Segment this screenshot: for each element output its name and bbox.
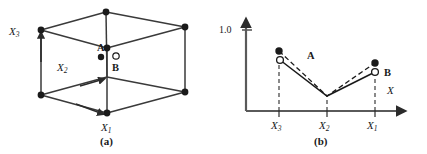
- cube-axis-label-x1: X1: [101, 122, 111, 133]
- cube-point-a-label: A: [97, 43, 105, 54]
- panel-a-caption: (a): [100, 136, 113, 147]
- vertex-top-back: [103, 9, 110, 16]
- series-b-label: B: [384, 68, 391, 79]
- series-b-point-x1: [372, 69, 379, 76]
- cube-axis-label-x3: X3: [9, 26, 19, 37]
- x-tick-label-x1: X1: [367, 120, 377, 131]
- cube-edge-top-front-right: [107, 27, 185, 48]
- x-axis-label: X: [387, 85, 394, 96]
- panel-a-cube: X3 X2 X1 A B (a): [0, 0, 214, 154]
- series-a-point-x1: [371, 59, 378, 66]
- panel-b-plot: 1.0 X X3 X2 X1 A B (b): [214, 0, 427, 154]
- vertex-bottom-front: [104, 110, 111, 117]
- series-a-path: [279, 51, 375, 96]
- series-b-point-x3: [277, 57, 284, 64]
- vertex-bottom-left: [38, 92, 45, 99]
- cube-edge-bottom-front-right: [107, 92, 185, 113]
- vertex-top-left: [38, 27, 45, 34]
- vertex-bottom-right: [182, 89, 189, 96]
- cube-point-b-label: B: [112, 63, 119, 74]
- cube-edge-top-back-left: [41, 12, 106, 30]
- series-b-markers: [277, 57, 379, 76]
- cube-edge-bottom-back-right: [107, 77, 185, 92]
- cube-point-a-marker: [98, 54, 104, 60]
- panel-b-caption: (b): [314, 136, 327, 147]
- cube-point-b-marker: [113, 53, 119, 59]
- plot-axes: [246, 20, 404, 111]
- x-tick-label-x3: X3: [271, 120, 281, 131]
- cube-edge-top-back-right: [106, 12, 185, 27]
- axis-arrow-x2: [80, 79, 104, 86]
- cube-edge-bottom-front-left: [41, 95, 107, 113]
- cube-axis-label-x2: X2: [57, 62, 67, 73]
- axis-arrow-x1: [76, 104, 103, 114]
- series-a-line: [279, 51, 375, 96]
- coordinate-guides: [279, 60, 375, 111]
- cube-edge-bottom-back-left: [41, 77, 107, 95]
- series-a-point-x3: [275, 47, 282, 54]
- y-axis-tick-label: 1.0: [219, 25, 232, 35]
- vertex-top-right: [182, 24, 189, 31]
- x-tick-label-x2: X2: [319, 120, 329, 131]
- series-a-label: A: [307, 51, 315, 62]
- series-a-markers: [275, 47, 378, 66]
- figure-container: X3 X2 X1 A B (a): [0, 0, 427, 154]
